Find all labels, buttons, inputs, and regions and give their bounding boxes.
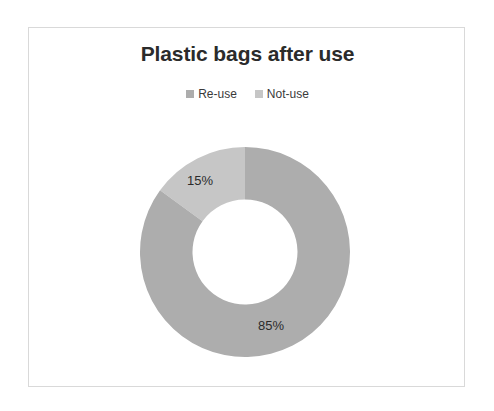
slice-value-label-not-use: 85% <box>258 318 284 333</box>
donut-chart <box>139 146 351 358</box>
donut-chart-area: 15% 85% <box>29 28 466 388</box>
chart-frame: Plastic bags after use Re-use Not-use 15… <box>28 27 465 387</box>
slice-value-label-re-use: 15% <box>187 173 213 188</box>
donut-slice-group <box>140 147 350 357</box>
